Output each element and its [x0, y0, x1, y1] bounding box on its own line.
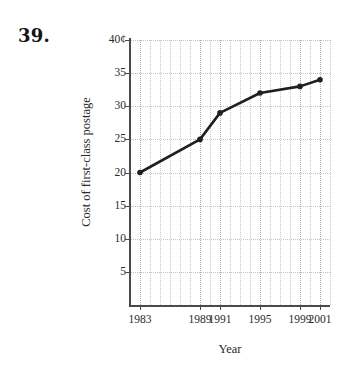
x-tick-label: 1983 — [129, 314, 152, 326]
x-tick-label: 1991 — [209, 314, 232, 326]
x-tick-mark — [140, 305, 141, 310]
x-tick-mark — [260, 305, 261, 310]
x-axis-ticks: 198319891991199519992001 — [68, 30, 348, 360]
x-axis-title: Year — [130, 342, 330, 357]
x-tick-label: 1995 — [249, 314, 272, 326]
x-tick-mark — [220, 305, 221, 310]
x-tick-label: 2001 — [309, 314, 332, 326]
x-tick-mark — [200, 305, 201, 310]
x-tick-mark — [300, 305, 301, 310]
x-tick-mark — [320, 305, 321, 310]
problem-number: 39. — [18, 27, 50, 45]
line-chart: Cost of first-class postage 510152025303… — [68, 30, 348, 360]
figure: 39. Cost of first-class postage 51015202… — [0, 0, 356, 368]
